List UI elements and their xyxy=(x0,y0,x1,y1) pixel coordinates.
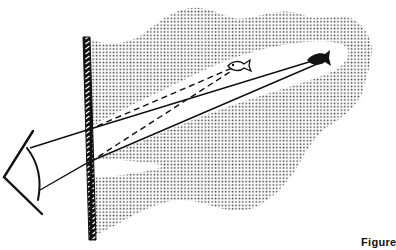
eye-icon xyxy=(4,131,42,214)
figure-caption: Figure xyxy=(361,236,396,248)
